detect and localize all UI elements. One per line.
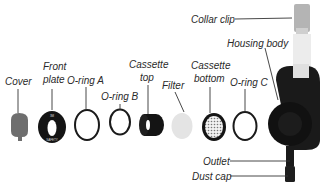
label-front-plate-line1: Front [43, 61, 66, 72]
front-plate: 3M SAFETY [38, 111, 66, 143]
svg-text:SAFETY: SAFETY [46, 138, 58, 142]
label-front-plate-line2: plate [43, 74, 65, 85]
label-filter: Filter [162, 80, 184, 91]
o-ring-a [75, 110, 99, 140]
label-o-ring-a: O-ring A [67, 75, 104, 86]
label-cover: Cover [5, 76, 32, 87]
label-o-ring-c: O-ring C [230, 77, 268, 88]
label-cassette-bottom-line1: Cassette [191, 60, 230, 71]
o-ring-b [110, 110, 130, 135]
housing-body [268, 64, 320, 150]
dust-cap [285, 166, 295, 182]
label-housing-body: Housing body [227, 38, 288, 49]
label-cassette-bottom-line2: bottom [194, 73, 225, 84]
cover [11, 113, 28, 141]
label-cassette-top-line2: top [140, 72, 154, 83]
label-collar-clip: Collar clip [191, 14, 235, 25]
label-outlet: Outlet [203, 156, 230, 167]
label-o-ring-b: O-ring B [101, 91, 138, 102]
label-cassette-top-line1: Cassette [129, 59, 168, 70]
label-dust-cap: Dust cap [192, 171, 231, 182]
svg-text:3M: 3M [50, 114, 55, 118]
cassette-top [139, 114, 164, 136]
cassette-bottom [202, 113, 226, 141]
parts-illustration: 3M SAFETY [0, 0, 323, 191]
outlet [286, 146, 294, 166]
o-ring-c [234, 112, 257, 140]
filter [172, 113, 193, 139]
